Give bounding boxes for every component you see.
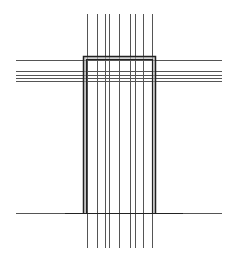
frame-grid-drawing <box>0 0 236 261</box>
diagram-canvas <box>0 0 236 261</box>
